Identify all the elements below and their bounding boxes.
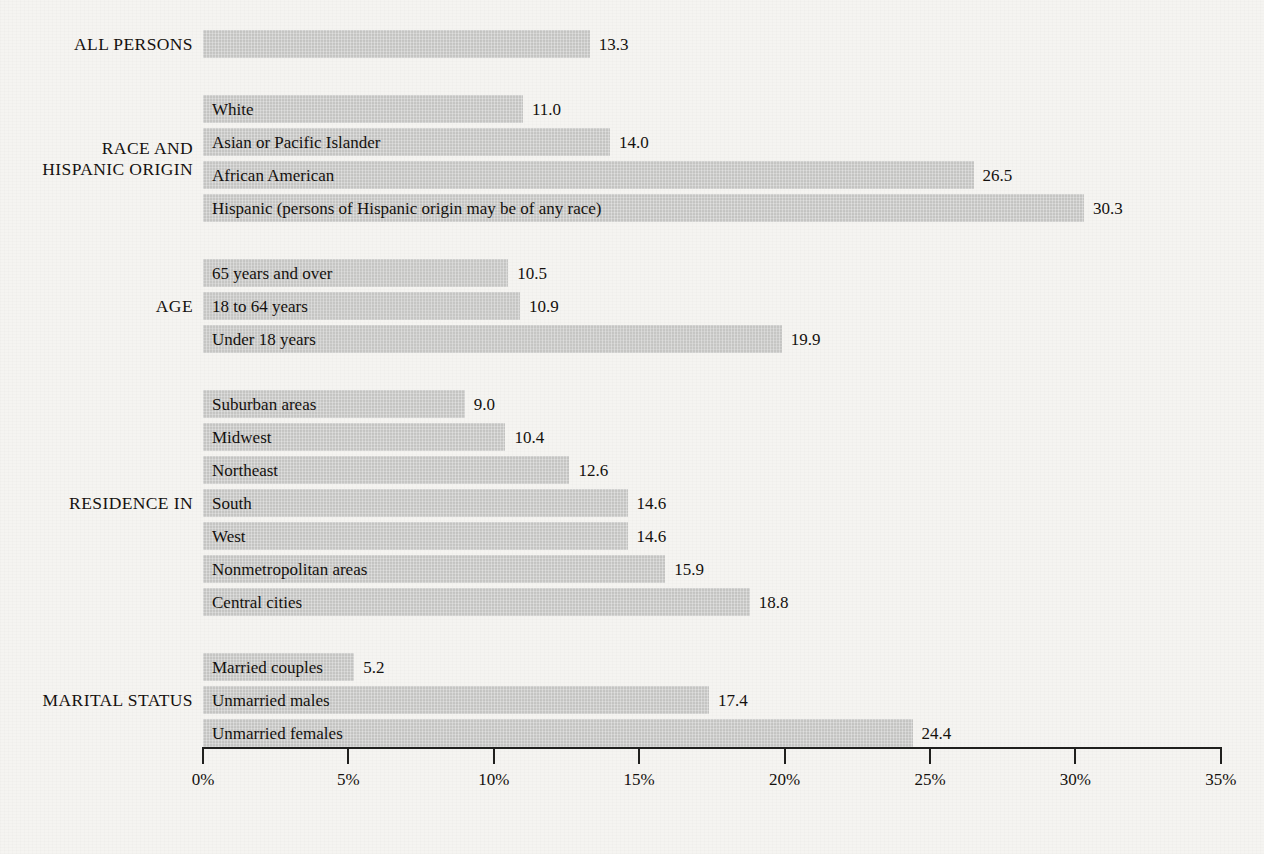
- x-axis-tick-label: 0%: [192, 770, 215, 790]
- bar-category-label: Suburban areas: [212, 390, 316, 418]
- bar-value-label: 5.2: [363, 653, 384, 681]
- bar-row[interactable]: African American26.5: [203, 161, 1264, 189]
- bar-category-label: Unmarried males: [212, 686, 330, 714]
- bar-value-label: 14.0: [619, 128, 649, 156]
- x-axis-tick: [1220, 747, 1222, 764]
- bar-category-label: White: [212, 95, 254, 123]
- bar-row[interactable]: Unmarried females24.4: [203, 719, 1264, 747]
- bar-row[interactable]: Married couples5.2: [203, 653, 1264, 681]
- x-axis-tick-label: 35%: [1205, 770, 1236, 790]
- x-axis-line: [202, 747, 1222, 749]
- bar-value-label: 17.4: [718, 686, 748, 714]
- bar-value-label: 10.5: [517, 259, 547, 287]
- bar-category-label: Central cities: [212, 588, 302, 616]
- bar-row[interactable]: 65 years and over10.5: [203, 259, 1264, 287]
- bar-category-label: Under 18 years: [212, 325, 316, 353]
- x-axis-tick: [784, 747, 786, 764]
- bar-value-label: 9.0: [474, 390, 495, 418]
- bar-category-label: South: [212, 489, 252, 517]
- bar-fill: [203, 489, 628, 517]
- bar-value-label: 12.6: [578, 456, 608, 484]
- x-axis-tick-label: 30%: [1060, 770, 1091, 790]
- bar-category-label: 65 years and over: [212, 259, 332, 287]
- bar-category-label: Midwest: [212, 423, 272, 451]
- bar-value-label: 14.6: [637, 522, 667, 550]
- bar-value-label: 24.4: [922, 719, 952, 747]
- x-axis-tick-label: 25%: [914, 770, 945, 790]
- bar-value-label: 15.9: [674, 555, 704, 583]
- bar-row[interactable]: Central cities18.8: [203, 588, 1264, 616]
- x-axis-tick: [1074, 747, 1076, 764]
- x-axis-tick: [638, 747, 640, 764]
- bar-fill: [203, 30, 590, 58]
- bar-value-label: 18.8: [759, 588, 789, 616]
- bar-category-label: Unmarried females: [212, 719, 343, 747]
- bar-row[interactable]: 13.3: [203, 30, 1264, 58]
- group-label-marital-status: MARITAL STATUS: [43, 690, 193, 711]
- bar-row[interactable]: West14.6: [203, 522, 1264, 550]
- poverty-rate-bar-chart: ALL PERSONS13.3RACE AND HISPANIC ORIGINW…: [0, 0, 1264, 854]
- bar-row[interactable]: Nonmetropolitan areas15.9: [203, 555, 1264, 583]
- x-axis-tick-label: 15%: [624, 770, 655, 790]
- bar-value-label: 26.5: [983, 161, 1013, 189]
- bar-value-label: 10.4: [514, 423, 544, 451]
- bar-row[interactable]: White11.0: [203, 95, 1264, 123]
- group-label-race-and-hispanic-origin: RACE AND HISPANIC ORIGIN: [42, 138, 193, 180]
- x-axis-tick-label: 10%: [478, 770, 509, 790]
- bar-row[interactable]: South14.6: [203, 489, 1264, 517]
- x-axis-tick: [493, 747, 495, 764]
- bar-value-label: 11.0: [532, 95, 561, 123]
- bar-value-label: 10.9: [529, 292, 559, 320]
- x-axis-tick-label: 5%: [337, 770, 360, 790]
- x-axis-tick: [202, 747, 204, 764]
- bar-category-label: African American: [212, 161, 334, 189]
- bar-row[interactable]: 18 to 64 years10.9: [203, 292, 1264, 320]
- x-axis-tick: [929, 747, 931, 764]
- bar-value-label: 30.3: [1093, 194, 1123, 222]
- bar-category-label: Hispanic (persons of Hispanic origin may…: [212, 194, 601, 222]
- bar-row[interactable]: Asian or Pacific Islander14.0: [203, 128, 1264, 156]
- bar-row[interactable]: Under 18 years19.9: [203, 325, 1264, 353]
- x-axis-tick-label: 20%: [769, 770, 800, 790]
- bar-category-label: Nonmetropolitan areas: [212, 555, 367, 583]
- bar-category-label: Northeast: [212, 456, 278, 484]
- bar-row[interactable]: Midwest10.4: [203, 423, 1264, 451]
- bar-category-label: 18 to 64 years: [212, 292, 308, 320]
- bar-category-label: Asian or Pacific Islander: [212, 128, 381, 156]
- bar-value-label: 14.6: [637, 489, 667, 517]
- group-label-residence-in: RESIDENCE IN: [69, 493, 193, 514]
- bar-row[interactable]: Unmarried males17.4: [203, 686, 1264, 714]
- group-label-age: AGE: [156, 296, 193, 317]
- bar-fill: [203, 522, 628, 550]
- x-axis-tick: [347, 747, 349, 764]
- bar-row[interactable]: Hispanic (persons of Hispanic origin may…: [203, 194, 1264, 222]
- bar-category-label: Married couples: [212, 653, 323, 681]
- bar-value-label: 13.3: [599, 30, 629, 58]
- group-label-all-persons: ALL PERSONS: [74, 34, 193, 55]
- bar-row[interactable]: Suburban areas9.0: [203, 390, 1264, 418]
- bar-category-label: West: [212, 522, 246, 550]
- bar-row[interactable]: Northeast12.6: [203, 456, 1264, 484]
- bar-value-label: 19.9: [791, 325, 821, 353]
